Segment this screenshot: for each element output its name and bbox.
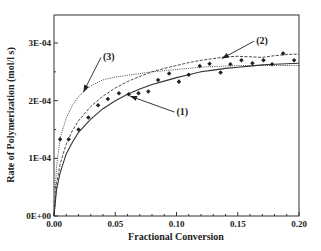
data-point-marker — [186, 72, 191, 77]
y-tick-label: 2E-04 — [29, 96, 52, 106]
curve-3 — [54, 66, 299, 217]
x-tick-label: 0.05 — [107, 219, 123, 229]
curve-1 — [54, 63, 299, 216]
arrow-line — [130, 96, 175, 112]
diamond-marker-icon — [58, 137, 63, 142]
annotation-label: (2) — [256, 35, 268, 47]
diamond-marker-icon — [136, 91, 141, 96]
annotation-3: (3) — [83, 51, 114, 92]
y-axis: 0E+001E-042E-043E-04 — [26, 38, 58, 221]
diamond-marker-icon — [261, 58, 266, 63]
data-point-marker — [239, 58, 244, 63]
chart: 0.000.050.100.150.20 0E+001E-042E-043E-0… — [0, 0, 321, 251]
diamond-marker-icon — [207, 61, 212, 66]
diamond-marker-icon — [117, 91, 122, 96]
data-point-marker — [96, 103, 101, 108]
data-point-marker — [156, 78, 161, 83]
annotation-label: (1) — [177, 106, 189, 118]
y-axis-title: Rate of Polymerization (mol/l s) — [5, 47, 17, 183]
data-point-marker — [106, 97, 111, 102]
x-axis: 0.000.050.100.150.20 — [46, 212, 307, 229]
x-tick-label: 0.10 — [169, 219, 185, 229]
data-point-marker — [198, 64, 203, 69]
data-point-marker — [66, 137, 71, 142]
x-axis-title: Fractional Conversion — [128, 231, 224, 242]
diamond-marker-icon — [239, 58, 244, 63]
diamond-marker-icon — [292, 58, 297, 63]
annotation-label: (3) — [103, 51, 115, 63]
data-point-marker — [207, 61, 212, 66]
diamond-marker-icon — [86, 115, 91, 120]
diamond-marker-icon — [186, 72, 191, 77]
x-tick-label: 0.20 — [291, 219, 307, 229]
diamond-marker-icon — [270, 62, 275, 67]
annotations: (1)(2)(3) — [83, 35, 267, 118]
data-point-marker — [136, 91, 141, 96]
diamond-marker-icon — [106, 97, 111, 102]
y-tick-label: 3E-04 — [29, 38, 52, 48]
annotation-2: (2) — [222, 35, 268, 58]
diamond-marker-icon — [218, 70, 223, 75]
x-tick-label: 0.15 — [230, 219, 246, 229]
data-point-marker — [167, 71, 172, 76]
diamond-marker-icon — [167, 71, 172, 76]
diamond-marker-icon — [96, 103, 101, 108]
diamond-marker-icon — [177, 79, 182, 84]
data-point-marker — [270, 62, 275, 67]
data-point-marker — [146, 89, 151, 94]
data-point-marker — [218, 70, 223, 75]
arrowhead-icon — [222, 53, 229, 59]
diamond-marker-icon — [250, 61, 255, 66]
data-point-marker — [117, 91, 122, 96]
data-point-marker — [177, 79, 182, 84]
data-point-marker — [58, 137, 63, 142]
data-point-marker — [261, 58, 266, 63]
data-point-marker — [86, 115, 91, 120]
arrowhead-icon — [130, 96, 137, 101]
diamond-marker-icon — [198, 64, 203, 69]
diamond-marker-icon — [156, 78, 161, 83]
data-point-marker — [250, 61, 255, 66]
data-point-marker — [292, 58, 297, 63]
annotation-1: (1) — [130, 96, 188, 118]
y-tick-label: 0E+00 — [26, 211, 51, 221]
diamond-marker-icon — [146, 89, 151, 94]
diamond-marker-icon — [66, 137, 71, 142]
y-tick-label: 1E-04 — [29, 153, 52, 163]
